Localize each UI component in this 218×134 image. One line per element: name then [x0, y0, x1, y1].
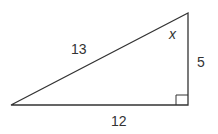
- triangle-diagram: [0, 0, 218, 134]
- angle-label: x: [169, 27, 176, 41]
- hypotenuse-label: 13: [71, 42, 87, 56]
- right-angle-marker: [176, 95, 188, 105]
- triangle: [11, 13, 188, 105]
- horizontal-leg-label: 12: [111, 114, 127, 128]
- vertical-leg-label: 5: [197, 55, 205, 69]
